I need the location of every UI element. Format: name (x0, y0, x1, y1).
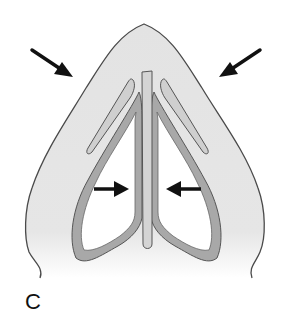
septum-strut (142, 71, 152, 249)
panel-label: C (25, 291, 41, 311)
outer-right-arrow-icon (219, 50, 260, 77)
nose-base-diagram (0, 0, 289, 311)
outer-left-arrow-icon (32, 50, 73, 77)
